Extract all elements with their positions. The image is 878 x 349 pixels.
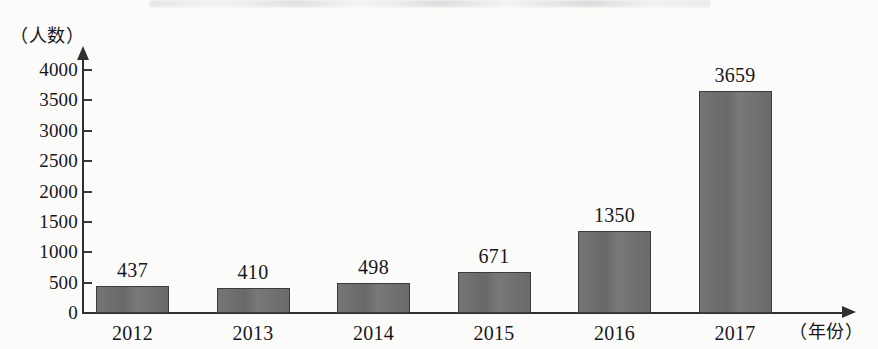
x-axis-category-label: 2016 [554,323,675,343]
y-axis-tick-mark [84,221,92,223]
y-axis-tick-mark [84,99,92,101]
y-axis-tick-text: 500 [22,273,78,292]
y-axis-tick-label: 1500 [14,212,78,231]
y-axis-tick-text: 3500 [22,90,78,109]
y-axis-tick-text: 0 [22,303,78,322]
y-axis-tick-label: 4000 [14,60,78,79]
y-axis-tick-label: 2500 [14,151,78,170]
y-axis-tick-text: 4000 [22,60,78,79]
y-axis-tick-mark [84,191,92,193]
bar-2015 [458,272,531,313]
y-axis-tick-text: 3000 [22,121,78,140]
chart-figure: （人数） 05001000150020002500300035004000 43… [0,0,878,349]
y-axis-tick-text: 2500 [22,151,78,170]
bar-2012 [96,286,169,313]
y-axis-tick-text: 1000 [22,242,78,261]
y-axis-tick-label: 3500 [14,90,78,109]
bar-value-label: 1350 [554,205,675,225]
y-axis-tick-mark [84,160,92,162]
y-axis-arrow-icon [77,46,89,60]
y-axis-tick-label: 2000 [14,182,78,201]
bar-2014 [337,283,410,313]
y-axis-title: （人数） [10,26,84,46]
bar-value-label: 437 [72,260,193,280]
x-axis-category-label: 2014 [313,323,434,343]
bar-2013 [217,288,290,313]
x-axis-category-label: 2013 [193,323,314,343]
y-axis-tick-label: 1000 [14,242,78,261]
bar-value-label: 671 [434,246,555,266]
y-axis-tick-label: 500 [14,273,78,292]
cropped-heading-strip [150,0,710,7]
y-axis-tick-text: 1500 [22,212,78,231]
y-axis-tick-label: 3000 [14,121,78,140]
bar-2016 [578,231,651,313]
bar-value-label: 410 [193,262,314,282]
y-axis-tick-text: 2000 [22,182,78,201]
y-axis-tick-mark [84,282,92,284]
x-axis-arrow-icon [842,306,856,318]
y-axis-tick-label: 0 [14,303,78,322]
y-axis-tick-mark [84,130,92,132]
x-axis-title: （年份） [789,322,863,342]
x-axis-category-label: 2012 [72,323,193,343]
bar-value-label: 3659 [675,65,796,85]
x-axis-category-label: 2015 [434,323,555,343]
bar-value-label: 498 [313,257,434,277]
bar-2017 [699,91,772,313]
y-axis-tick-mark [84,251,92,253]
x-axis-category-label: 2017 [675,323,796,343]
y-axis-tick-mark [84,69,92,71]
